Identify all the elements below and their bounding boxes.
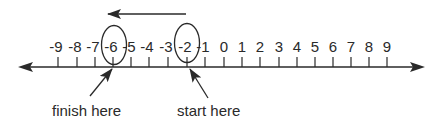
- tick-label: 8: [365, 38, 373, 55]
- tick-label: -6: [104, 38, 117, 55]
- start-pointer-arrow: [190, 69, 208, 98]
- tick-label: -2: [178, 38, 191, 55]
- number-line-diagram: -9-8-7-6-5-4-3-2-10123456789 finish here…: [0, 0, 443, 125]
- start-label: start here: [177, 102, 240, 119]
- tick-label: 4: [293, 38, 301, 55]
- tick-label: 1: [238, 38, 246, 55]
- tick-label: 3: [275, 38, 283, 55]
- tick-label: 0: [220, 38, 228, 55]
- tick-label: 6: [329, 38, 337, 55]
- finish-pointer-arrow: [90, 69, 112, 96]
- tick-label: -8: [68, 38, 81, 55]
- tick-label: 9: [383, 38, 391, 55]
- tick-label: 7: [347, 38, 355, 55]
- tick-label: -7: [86, 38, 99, 55]
- tick-group: -9-8-7-6-5-4-3-2-10123456789: [49, 38, 391, 67]
- tick-label: 2: [256, 38, 264, 55]
- tick-label: -5: [122, 38, 135, 55]
- finish-label: finish here: [52, 102, 121, 119]
- tick-label: -3: [159, 38, 172, 55]
- tick-label: 5: [311, 38, 319, 55]
- tick-label: -4: [140, 38, 153, 55]
- tick-label: -9: [49, 38, 62, 55]
